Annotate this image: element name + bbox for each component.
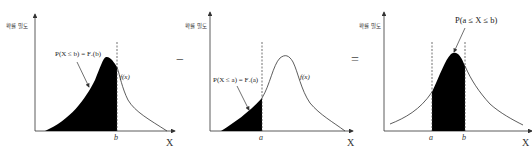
y-axis-label: 확률 밀도 bbox=[185, 22, 207, 30]
pdf-plot-interval bbox=[365, 0, 532, 156]
tick-a: a bbox=[259, 133, 263, 142]
shaded-area bbox=[45, 57, 117, 131]
shaded-area bbox=[221, 98, 262, 131]
curve-label-fx: f(x) bbox=[120, 73, 130, 81]
panel-cdf-a: 확률 밀도 X a P(X ≤ a) = Fₓ(a) f(x) bbox=[185, 0, 355, 156]
x-axis-label: X bbox=[166, 137, 173, 148]
minus-operator: − bbox=[176, 52, 184, 68]
y-axis-label: 확률 밀도 bbox=[359, 22, 381, 30]
panel-interval: 확률 밀도 X a b P(a ≤ X ≤ b) bbox=[365, 0, 532, 156]
x-axis-label: X bbox=[347, 137, 354, 148]
shaded-area bbox=[432, 53, 465, 131]
curve-label-fx: f(x) bbox=[300, 73, 310, 81]
annotation-cdf-a: P(X ≤ a) = Fₓ(a) bbox=[213, 76, 258, 84]
equals-operator: = bbox=[351, 52, 359, 68]
y-axis-label: 확률 밀도 bbox=[6, 22, 28, 30]
panel-cdf-b: 확률 밀도 X b P(X ≤ b) = Fₓ(b) f(x) bbox=[0, 0, 175, 156]
pdf-plot-a bbox=[185, 0, 355, 156]
tick-a: a bbox=[429, 133, 433, 142]
annotation-interval: P(a ≤ X ≤ b) bbox=[455, 15, 497, 25]
tick-b: b bbox=[462, 133, 466, 142]
x-axis-label: X bbox=[522, 137, 529, 148]
tick-b: b bbox=[114, 133, 118, 142]
annotation-cdf-b: P(X ≤ b) = Fₓ(b) bbox=[55, 50, 101, 58]
